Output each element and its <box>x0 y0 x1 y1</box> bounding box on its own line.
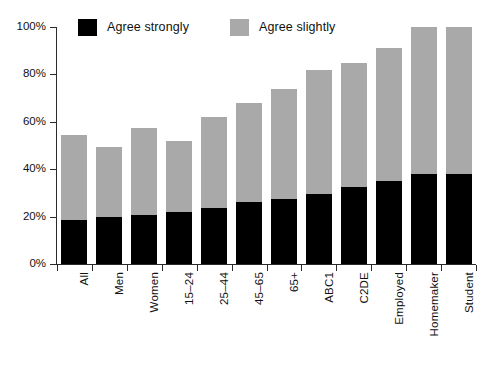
y-axis-tick <box>50 74 56 75</box>
bar-segment-agree-slightly <box>341 63 367 187</box>
bar-65- <box>271 27 297 264</box>
stacked-bar-chart: Agree strongly Agree slightly 0%20%40%60… <box>0 0 479 365</box>
bar-segment-agree-strongly <box>236 202 262 264</box>
bar-employed <box>376 27 402 264</box>
bar-segment-agree-strongly <box>446 174 472 264</box>
bar-segment-agree-strongly <box>131 215 157 264</box>
x-axis-tick <box>441 265 442 271</box>
y-axis-tick-label: 40% <box>0 163 46 175</box>
x-axis-tick <box>476 265 477 271</box>
bar-segment-agree-slightly <box>201 117 227 208</box>
x-axis-label-c2de: C2DE <box>359 272 371 303</box>
y-axis-tick <box>50 122 56 123</box>
y-axis-tick <box>50 217 56 218</box>
y-axis-tick <box>50 169 56 170</box>
x-axis-label-65-: 65+ <box>289 272 301 292</box>
bar-abc1 <box>306 27 332 264</box>
x-axis-tick <box>162 265 163 271</box>
x-axis-label-45-65: 45–65 <box>254 272 266 305</box>
bar-15-24 <box>166 27 192 264</box>
bar-c2de <box>341 27 367 264</box>
x-axis-label-15-24: 15–24 <box>184 272 196 305</box>
bar-segment-agree-strongly <box>306 194 332 264</box>
bar-segment-agree-strongly <box>411 174 437 264</box>
x-axis-label-women: Women <box>149 272 161 312</box>
bar-segment-agree-slightly <box>446 27 472 174</box>
y-axis-tick-label: 20% <box>0 211 46 223</box>
bar-45-65 <box>236 27 262 264</box>
bar-segment-agree-strongly <box>271 199 297 264</box>
y-axis-tick-label: 0% <box>0 258 46 270</box>
y-axis-tick-label: 80% <box>0 69 46 81</box>
x-axis-label-all: All <box>79 272 91 285</box>
x-axis-tick <box>301 265 302 271</box>
bar-all <box>61 27 87 264</box>
bar-segment-agree-slightly <box>411 27 437 174</box>
y-axis-tick-label: 100% <box>0 21 46 33</box>
x-axis-label-employed: Employed <box>394 272 406 325</box>
bar-segment-agree-strongly <box>166 212 192 264</box>
bar-segment-agree-slightly <box>131 128 157 216</box>
x-axis-tick <box>197 265 198 271</box>
x-axis-label-student: Student <box>464 272 476 313</box>
x-axis-tick <box>267 265 268 271</box>
x-axis-label-25-44: 25–44 <box>219 272 231 305</box>
bar-segment-agree-strongly <box>61 220 87 264</box>
bar-segment-agree-strongly <box>341 187 367 264</box>
x-axis-tick <box>57 265 58 271</box>
plot-area <box>57 27 476 264</box>
bar-homemaker <box>411 27 437 264</box>
x-axis-tick <box>406 265 407 271</box>
bar-segment-agree-slightly <box>236 103 262 203</box>
y-axis-tick-label: 60% <box>0 116 46 128</box>
x-axis-label-men: Men <box>114 272 126 295</box>
x-axis-label-abc1: ABC1 <box>324 272 336 303</box>
bar-segment-agree-strongly <box>96 217 122 264</box>
bar-men <box>96 27 122 264</box>
x-axis-tick <box>336 265 337 271</box>
x-axis-tick <box>127 265 128 271</box>
x-axis-tick <box>232 265 233 271</box>
bar-segment-agree-slightly <box>271 89 297 199</box>
bar-segment-agree-strongly <box>201 208 227 264</box>
x-axis-tick <box>371 265 372 271</box>
bar-segment-agree-strongly <box>376 181 402 264</box>
x-axis-tick <box>92 265 93 271</box>
y-axis-tick <box>50 27 56 28</box>
bar-25-44 <box>201 27 227 264</box>
bar-segment-agree-slightly <box>306 70 332 194</box>
y-axis-tick <box>50 264 56 265</box>
bar-segment-agree-slightly <box>166 141 192 212</box>
bar-student <box>446 27 472 264</box>
bar-women <box>131 27 157 264</box>
bar-segment-agree-slightly <box>96 147 122 217</box>
bar-segment-agree-slightly <box>376 48 402 181</box>
bar-segment-agree-slightly <box>61 135 87 220</box>
x-axis-label-homemaker: Homemaker <box>429 272 441 336</box>
